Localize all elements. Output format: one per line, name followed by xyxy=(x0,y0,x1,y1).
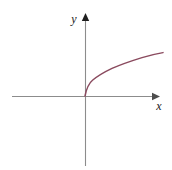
graph-figure: y x xyxy=(0,0,172,170)
function-curve xyxy=(85,53,163,96)
x-axis-label: x xyxy=(155,99,162,113)
plot-canvas: y x xyxy=(0,0,172,170)
y-axis-label: y xyxy=(70,12,77,26)
y-axis-arrowhead xyxy=(82,13,89,21)
